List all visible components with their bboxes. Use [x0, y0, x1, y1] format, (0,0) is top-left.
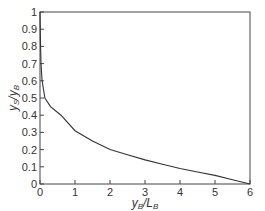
y-tick-label: 1	[31, 6, 37, 18]
y-tick-label: 0	[31, 178, 37, 190]
data-line	[40, 12, 250, 184]
x-tick-label: 4	[177, 186, 183, 198]
x-tick-label: 0	[37, 186, 43, 198]
y-tick-label: 0.4	[22, 109, 37, 121]
plot-frame	[40, 12, 250, 184]
x-tick-label: 1	[72, 186, 78, 198]
y-tick-label: 0.9	[22, 23, 37, 35]
y-tick-label: 0.1	[22, 161, 37, 173]
y-tick-label: 0.3	[22, 126, 37, 138]
y-tick-label: 0.2	[22, 144, 37, 156]
y-axis-label: yS/yB	[6, 84, 21, 112]
x-axis-label: yB/LB	[131, 196, 159, 211]
y-tick-label: 0.8	[22, 40, 37, 52]
y-tick-label: 0.6	[22, 75, 37, 87]
y-tick-label: 0.7	[22, 58, 37, 70]
x-tick-label: 5	[212, 186, 218, 198]
chart: 0123456 00.10.20.30.40.50.60.70.80.91 yB…	[0, 0, 265, 211]
x-tick-label: 6	[247, 186, 253, 198]
x-tick-label: 2	[107, 186, 113, 198]
y-tick-label: 0.5	[22, 92, 37, 104]
